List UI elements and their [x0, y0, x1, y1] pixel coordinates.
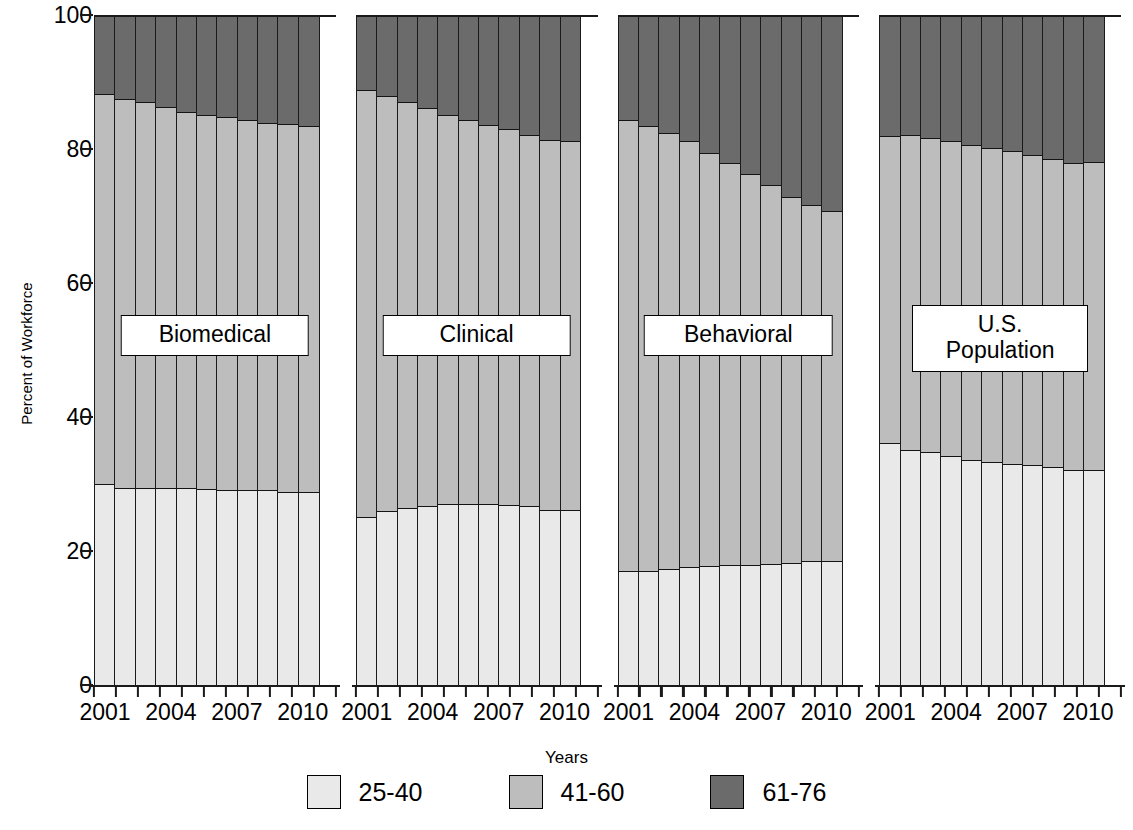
bar-segment-61-76 — [700, 15, 720, 154]
bar-segment-61-76 — [982, 15, 1002, 149]
legend-item[interactable]: 25-40 — [307, 775, 423, 809]
bar-segment-25-40 — [377, 512, 397, 685]
bar-segment-25-40 — [156, 489, 176, 685]
panel-label-clinical: Clinical — [382, 315, 571, 356]
bar-segment-61-76 — [479, 15, 499, 126]
bar-segment-61-76 — [136, 15, 156, 103]
legend-item[interactable]: 61-76 — [710, 775, 826, 809]
bar-segment-61-76 — [822, 15, 842, 212]
bar-segment-25-40 — [619, 572, 639, 685]
bar-segment-61-76 — [438, 15, 458, 116]
bar-segment-41-60 — [782, 198, 802, 564]
bar-segment-61-76 — [238, 15, 258, 121]
bar-segment-25-40 — [438, 505, 458, 685]
bar-segment-25-40 — [278, 493, 298, 685]
bar-segment-25-40 — [136, 489, 156, 685]
x-axis-tick-label: 2010 — [277, 701, 328, 724]
legend-item[interactable]: 41-60 — [509, 775, 625, 809]
bar-segment-25-40 — [398, 509, 418, 685]
x-axis-tick-label: 2007 — [473, 701, 524, 724]
bar-segment-25-40 — [1003, 465, 1023, 685]
x-axis-tick-label: 2001 — [865, 701, 916, 724]
stacked-bar-chart: Percent of Workforce 020406080100 Biomed… — [0, 0, 1133, 830]
bar-segment-61-76 — [520, 15, 540, 136]
legend-swatch — [710, 775, 744, 809]
bar-segment-61-76 — [880, 15, 900, 137]
x-axis-tick-label: 2001 — [79, 701, 130, 724]
x-axis-tick-label: 2010 — [1062, 701, 1113, 724]
bar-segment-41-60 — [619, 121, 639, 573]
stacked-bar[interactable] — [618, 15, 640, 685]
legend-swatch — [307, 775, 341, 809]
bar-segment-61-76 — [197, 15, 217, 116]
x-axis-tick-label: 2010 — [539, 701, 590, 724]
chart-panel: U.S. Population — [879, 15, 1121, 685]
bar-segment-41-60 — [278, 125, 298, 493]
panel-baseline — [614, 685, 864, 687]
bar-segment-25-40 — [1064, 471, 1084, 685]
bar-segment-41-60 — [377, 97, 397, 512]
panel-baseline — [875, 685, 1125, 687]
bar-segment-61-76 — [619, 15, 639, 121]
bar-segment-25-40 — [95, 485, 115, 685]
bar-segment-25-40 — [1043, 468, 1063, 685]
bar-segment-25-40 — [982, 463, 1002, 685]
x-axis-tick-label: 2007 — [997, 701, 1048, 724]
bar-segment-41-60 — [398, 103, 418, 509]
stacked-bar[interactable] — [879, 15, 901, 685]
bar-segment-25-40 — [299, 493, 319, 685]
x-axis-tick-label: 2004 — [669, 701, 720, 724]
bar-segment-25-40 — [177, 489, 197, 685]
bar-segment-25-40 — [761, 565, 781, 685]
bar-segment-41-60 — [720, 164, 740, 566]
bar-segment-41-60 — [299, 127, 319, 493]
bar-segment-61-76 — [459, 15, 479, 121]
bar-segment-61-76 — [398, 15, 418, 103]
panel-baseline — [90, 685, 340, 687]
bar-segment-25-40 — [822, 562, 842, 685]
bar-segment-61-76 — [1003, 15, 1023, 152]
bar-segment-25-40 — [540, 511, 560, 685]
bar-segment-25-40 — [639, 572, 659, 685]
bar-segment-25-40 — [479, 505, 499, 685]
bar-segment-61-76 — [639, 15, 659, 127]
bar-segment-41-60 — [962, 146, 982, 460]
bar-segment-61-76 — [156, 15, 176, 108]
panel-top-rule — [94, 15, 336, 17]
bar-segment-61-76 — [802, 15, 822, 206]
legend-label: 61-76 — [762, 780, 826, 805]
bar-segment-25-40 — [520, 507, 540, 685]
bar-segment-61-76 — [761, 15, 781, 186]
x-axis-panel: 2001200420072010 — [94, 685, 336, 745]
stacked-bar[interactable] — [94, 15, 116, 685]
bar-segment-61-76 — [901, 15, 921, 136]
bar-segment-61-76 — [1064, 15, 1084, 164]
x-axis-tick-label: 2001 — [341, 701, 392, 724]
bar-segment-41-60 — [238, 121, 258, 491]
bar-segment-25-40 — [561, 511, 581, 685]
x-axis-tick-label: 2007 — [211, 701, 262, 724]
x-axis-tick-label: 2007 — [735, 701, 786, 724]
bar-segment-61-76 — [177, 15, 197, 113]
bar-segment-41-60 — [901, 136, 921, 450]
x-axis-tick-label: 2004 — [145, 701, 196, 724]
x-axis-panel: 2001200420072010 — [356, 685, 598, 745]
bar-segment-41-60 — [357, 91, 377, 518]
bar-segment-61-76 — [720, 15, 740, 164]
panel-label-u-s-population: U.S. Population — [912, 305, 1088, 372]
stacked-bar[interactable] — [356, 15, 378, 685]
bar-segment-61-76 — [561, 15, 581, 142]
bar-segment-61-76 — [921, 15, 941, 139]
bar-segment-41-60 — [95, 95, 115, 486]
chart-panel: Clinical — [356, 15, 598, 685]
bar-segment-25-40 — [197, 490, 217, 685]
bar-segment-61-76 — [1023, 15, 1043, 156]
x-axis-title: Years — [0, 748, 1133, 768]
bar-segment-25-40 — [741, 566, 761, 685]
x-axis-tick-label: 2004 — [407, 701, 458, 724]
bar-segment-41-60 — [115, 100, 135, 489]
bar-segment-25-40 — [217, 491, 237, 685]
bar-segment-25-40 — [880, 444, 900, 685]
bar-segment-41-60 — [418, 109, 438, 507]
bar-segment-25-40 — [962, 461, 982, 685]
